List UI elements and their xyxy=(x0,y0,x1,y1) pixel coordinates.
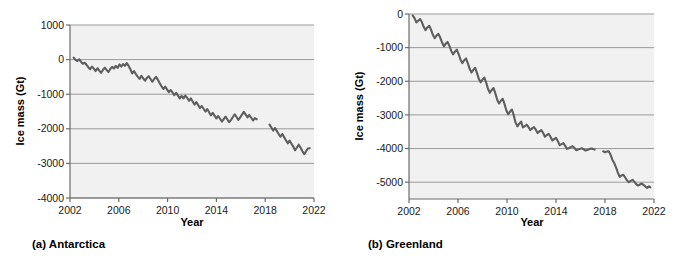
x-ticks-a: 200220062010201420182022 xyxy=(58,198,326,216)
plot-background-a xyxy=(70,25,314,198)
x-tick-label: 2010 xyxy=(495,205,519,217)
x-ticks-b: 200220062010201420182022 xyxy=(397,199,666,217)
y-tick-label: -5000 xyxy=(376,176,403,188)
y-axis-title-b: Ice mass (Gt) xyxy=(353,71,365,140)
x-tick-label: 2014 xyxy=(205,204,229,216)
x-tick-label: 2002 xyxy=(397,205,421,217)
ice-mass-figure: 10000-1000-2000-3000-4000 20022006201020… xyxy=(0,0,687,258)
x-axis-title-a: Year xyxy=(180,216,204,228)
x-tick-label: 2006 xyxy=(446,205,470,217)
y-ticks-a: 10000-1000-2000-3000-4000 xyxy=(37,19,70,204)
y-tick-label: 0 xyxy=(397,8,403,20)
y-tick-label: -1000 xyxy=(37,88,64,100)
x-tick-label: 2018 xyxy=(254,204,278,216)
chart-greenland: 0-1000-2000-3000-4000-5000 2002200620102… xyxy=(344,0,687,228)
panel-antarctica: 10000-1000-2000-3000-4000 20022006201020… xyxy=(0,0,343,258)
x-tick-label: 2022 xyxy=(302,204,326,216)
y-tick-label: -4000 xyxy=(37,192,64,204)
x-tick-label: 2018 xyxy=(593,205,617,217)
chart-antarctica: 10000-1000-2000-3000-4000 20022006201020… xyxy=(0,0,343,228)
panel-greenland: 0-1000-2000-3000-4000-5000 2002200620102… xyxy=(344,0,687,258)
x-tick-label: 2002 xyxy=(58,204,82,216)
y-tick-label: 0 xyxy=(58,53,64,65)
x-tick-label: 2022 xyxy=(642,205,666,217)
x-tick-label: 2014 xyxy=(544,205,568,217)
y-tick-label: -3000 xyxy=(37,157,64,169)
y-tick-label: -2000 xyxy=(37,122,64,134)
y-tick-label: -1000 xyxy=(376,41,403,53)
y-tick-label: -4000 xyxy=(376,142,403,154)
y-tick-label: -2000 xyxy=(376,75,403,87)
x-axis-title-b: Year xyxy=(520,216,544,228)
y-ticks-b: 0-1000-2000-3000-4000-5000 xyxy=(376,8,409,188)
y-tick-label: -3000 xyxy=(376,109,403,121)
y-tick-label: 1000 xyxy=(41,19,65,31)
caption-greenland: (b) Greenland xyxy=(368,238,443,250)
caption-antarctica: (a) Antarctica xyxy=(32,238,105,250)
y-axis-title-a: Ice mass (Gt) xyxy=(14,76,26,145)
x-tick-label: 2010 xyxy=(156,204,180,216)
x-tick-label: 2006 xyxy=(107,204,131,216)
